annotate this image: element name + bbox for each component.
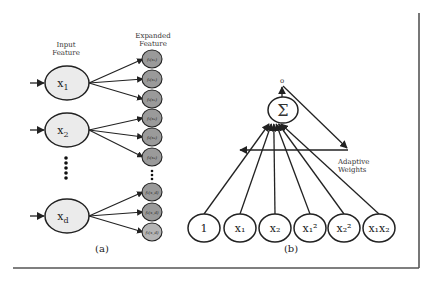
expanded-feature-label: f₁(x₂) (146, 116, 158, 121)
basis-node-label: x₁ (235, 222, 246, 235)
sigma-symbol: Σ (277, 101, 288, 120)
basis-node-label: x₂ (270, 222, 281, 235)
caption-b: (b) (284, 243, 298, 254)
basis-node-x2: x₂ (259, 124, 291, 242)
weight-connection (276, 124, 310, 214)
expanded-ellipsis-dots (151, 170, 154, 181)
input-feature-node-x1: x1f₁(x₁)f₂(x₁)f₃(x₁) (30, 50, 162, 108)
caption-a: (a) (95, 243, 109, 254)
adaptive-weights-label-line1: Adaptive (337, 158, 369, 166)
basis-node-label: x₁x₂ (368, 222, 389, 235)
expanded-feature-label: f₃(x₁) (146, 97, 158, 102)
input-ellipsis-dots (64, 156, 68, 180)
panel-a: Input Feature Expanded Feature x1f₁(x₁)f… (30, 32, 171, 254)
panel-b-nodes: 1x₁x₂x₁²x₂²x₁x₂ (188, 124, 395, 242)
input-feature-node-xd: xdf₁(x_d)f₂(x_d)f₃(x_d) (30, 183, 162, 241)
expanded-feature-header-line2: Feature (139, 40, 167, 48)
input-feature-header-line1: Input (56, 41, 75, 49)
weight-connection (279, 124, 344, 214)
output-label: o (280, 77, 284, 85)
adaptive-weights-label-line2: Weights (338, 166, 367, 174)
functional-link-network-diagram: Input Feature Expanded Feature x1f₁(x₁)f… (0, 0, 439, 286)
weight-connection (240, 124, 271, 214)
expansion-arrow (89, 83, 143, 99)
basis-node-label: x₁² (302, 222, 317, 235)
input-feature-node-x2: x2f₁(x₂)f₂(x₂)f₃(x₂) (30, 109, 162, 166)
expanded-feature-header-line1: Expanded (135, 32, 171, 40)
panel-a-nodes: x1f₁(x₁)f₂(x₁)f₃(x₁)x2f₁(x₂)f₂(x₂)f₃(x₂)… (30, 50, 162, 241)
expansion-arrow (89, 216, 143, 232)
input-feature-header-line2: Feature (52, 49, 80, 57)
panel-b: o Σ Adaptive Weights 1x₁x₂x₁²x₂²x₁x₂ (b) (188, 77, 395, 254)
expanded-feature-label: f₃(x₂) (146, 155, 158, 160)
expanded-feature-label: f₂(x₁) (146, 77, 158, 82)
expanded-feature-label: f₁(x₁) (146, 57, 158, 62)
basis-node-label: x₂² (336, 222, 351, 235)
summation-node: Σ (268, 97, 298, 123)
expanded-feature-label: f₃(x_d) (144, 230, 158, 235)
expanded-feature-label: f₁(x_d) (144, 190, 158, 195)
weight-connection (204, 124, 269, 214)
expansion-arrow (89, 118, 143, 130)
expanded-feature-label: f₂(x₂) (146, 135, 158, 140)
expanded-feature-label: f₂(x_d) (144, 210, 158, 215)
basis-node-label: 1 (201, 222, 208, 235)
weight-connection (274, 124, 275, 214)
